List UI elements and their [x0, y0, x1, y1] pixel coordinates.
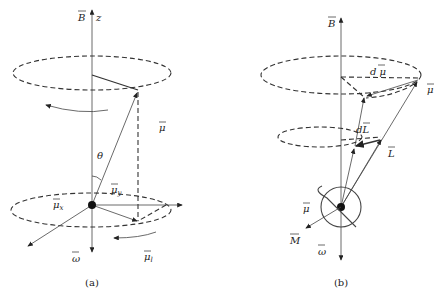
label-theta: θ	[97, 150, 103, 161]
b-label-omega: ω	[318, 246, 326, 257]
dashed-connector	[138, 205, 166, 221]
precession-diagram: B z μ θ μy μx ω μl (a)	[0, 0, 441, 298]
panel-a: B z μ θ μy μx ω μl (a)	[11, 10, 182, 288]
label-z: z	[95, 12, 102, 23]
lower-rotation-arrow	[114, 232, 156, 238]
label-mu-y: μy	[111, 184, 123, 197]
mu-l-vector	[92, 205, 137, 221]
b-label-d-L: dL	[356, 124, 369, 135]
b-label-B: B	[327, 18, 335, 29]
b-label-mu-left: μ	[303, 203, 310, 214]
M-vector	[306, 207, 341, 228]
caption-a: (a)	[85, 277, 99, 288]
b-label-d-mu: d μ	[370, 66, 386, 77]
b-lower-circle	[278, 127, 362, 147]
b-upper-radius	[341, 77, 419, 78]
b-label-mu-top: μ	[427, 84, 434, 95]
upper-rotation-arrow	[46, 105, 108, 112]
label-omega: ω	[72, 253, 80, 264]
label-mu-l: μl	[144, 251, 153, 264]
b-label-M: M	[289, 235, 301, 246]
origin-dot	[88, 201, 96, 209]
label-B: B	[77, 12, 85, 23]
label-mu-x: μx	[53, 199, 64, 212]
L-vector	[341, 140, 381, 207]
theta-arc	[92, 176, 101, 180]
label-mu: μ	[159, 122, 166, 133]
caption-b: (b)	[334, 277, 348, 288]
panel-b: B d μ μ dL L μ M ω (b)	[261, 17, 434, 288]
lower-precession-circle	[11, 193, 171, 227]
upper-radius	[92, 75, 138, 90]
b-L-vector-2	[341, 149, 354, 207]
b-label-L: L	[387, 148, 395, 159]
